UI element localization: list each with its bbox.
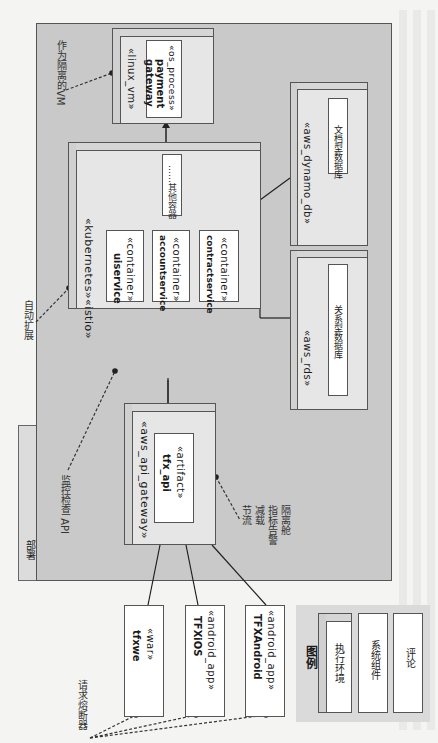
legend: 图例 执行环境 系统组件 评论 bbox=[296, 605, 430, 722]
client-tfxios[interactable]: «android_app» TFXiOS bbox=[185, 605, 225, 717]
legend-system-component-label: 系统组件 bbox=[367, 640, 382, 680]
doc-other-containers[interactable]: ……其他容器 bbox=[162, 154, 182, 216]
legend-execution-env: 执行环境 bbox=[318, 613, 352, 713]
tfxios-stereotype: «android_app» bbox=[206, 610, 217, 691]
kubernetes-stereotype: «kubernetes»«istio» bbox=[82, 218, 95, 339]
api-gateway-stereotype: «aws_api_gateway» bbox=[138, 421, 151, 539]
node-aws-dynamo-db[interactable]: «aws_dynamo_db» 文档型数据库 bbox=[290, 82, 368, 246]
note-gateway-features: 节流 减载 指标告警 隔离舱 bbox=[238, 505, 298, 565]
legend-title: 图例 bbox=[302, 645, 319, 669]
node-linux-vm[interactable]: «linux_vm» «os_process» payment gateway bbox=[112, 28, 214, 124]
accountservice-name: accountservice bbox=[158, 235, 168, 311]
node-aws-api-gateway[interactable]: «aws_api_gateway» «artifact» tfx_api bbox=[124, 403, 216, 545]
note-auto-scale: 自动扩展 bbox=[20, 300, 35, 340]
container-uiservice[interactable]: «container» uiservice bbox=[106, 230, 144, 302]
accountservice-stereotype: «container» bbox=[171, 237, 182, 302]
relational-db-label: 关系型数据库 bbox=[332, 305, 345, 359]
uiservice-stereotype: «container» bbox=[125, 237, 136, 302]
component-payment-gateway[interactable]: «os_process» payment gateway bbox=[146, 40, 182, 118]
node-aws-rds[interactable]: «aws_rds» 关系型数据库 bbox=[290, 250, 368, 410]
legend-comment-label: 评论 bbox=[402, 648, 417, 668]
payment-gateway-name-1: payment bbox=[155, 59, 166, 108]
uiservice-name: uiservice bbox=[112, 253, 123, 304]
other-containers-label: ……其他容器 bbox=[166, 165, 179, 219]
artifact-tfx-api[interactable]: «artifact» tfx_api bbox=[154, 433, 194, 523]
legend-comment: 评论 bbox=[393, 613, 423, 713]
note-isolated-vm: 作为隔离的VM bbox=[53, 40, 68, 105]
contractservice-name: contractservice bbox=[205, 235, 215, 314]
note-circuit-breaker: 请求熔断器 bbox=[74, 680, 89, 730]
rds-stereotype: «aws_rds» bbox=[302, 330, 313, 387]
legend-system-component: 系统组件 bbox=[358, 613, 388, 713]
payment-gateway-name-2: gateway bbox=[144, 59, 155, 107]
note-health-check: 监控检查 API bbox=[57, 475, 72, 534]
tfxwe-stereotype: «war» bbox=[145, 628, 156, 661]
legend-execution-env-label: 执行环境 bbox=[331, 643, 346, 683]
container-contractservice[interactable]: «container» contractservice bbox=[199, 230, 239, 302]
contractservice-stereotype: «container» bbox=[219, 237, 230, 302]
document-db-label: 文档型数据库 bbox=[332, 125, 345, 179]
tfx-api-name: tfx_api bbox=[161, 454, 172, 492]
tfxios-name: TFXiOS bbox=[192, 616, 203, 657]
payment-gateway-stereotype: «os_process» bbox=[167, 45, 177, 111]
client-tfxandroid[interactable]: «android_app» TFXAndroid bbox=[245, 605, 285, 717]
node-kubernetes[interactable]: «kubernetes»«istio» «container» uiservic… bbox=[68, 142, 261, 309]
dynamo-db-stereotype: «aws_dynamo_db» bbox=[302, 122, 313, 225]
tfxandroid-name: TFXAndroid bbox=[252, 614, 263, 680]
linux-vm-stereotype: «linux_vm» bbox=[126, 48, 137, 110]
tfx-api-stereotype: «artifact» bbox=[175, 446, 186, 499]
feature-bulkhead: 隔离舱 bbox=[277, 505, 292, 535]
tfxwe-name: tfxwe bbox=[131, 630, 142, 662]
doc-relational-db: 关系型数据库 bbox=[328, 264, 348, 396]
client-tfxwe[interactable]: «war» tfxwe bbox=[124, 605, 164, 717]
doc-document-db: 文档型数据库 bbox=[328, 98, 348, 174]
tfxandroid-stereotype: «android_app» bbox=[266, 610, 277, 691]
container-accountservice[interactable]: «container» accountservice bbox=[152, 230, 190, 302]
